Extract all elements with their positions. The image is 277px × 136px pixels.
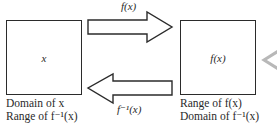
range-caption-line2: Domain of f⁻¹(x) bbox=[180, 110, 259, 123]
range-caption: Range of f(x) Domain of f⁻¹(x) bbox=[180, 97, 259, 123]
chevron-left-icon[interactable] bbox=[264, 50, 277, 70]
domain-caption-line2: Range of f⁻¹(x) bbox=[6, 110, 77, 123]
inverse-arrow-label: f⁻¹(x) bbox=[117, 103, 141, 116]
forward-arrow-label: f(x) bbox=[121, 0, 136, 12]
inverse-arrow-icon bbox=[88, 74, 172, 103]
domain-caption-line1: Domain of x bbox=[6, 97, 77, 110]
domain-caption: Domain of x Range of f⁻¹(x) bbox=[6, 97, 77, 123]
range-caption-line1: Range of f(x) bbox=[180, 97, 259, 110]
forward-arrow-icon bbox=[88, 12, 172, 42]
